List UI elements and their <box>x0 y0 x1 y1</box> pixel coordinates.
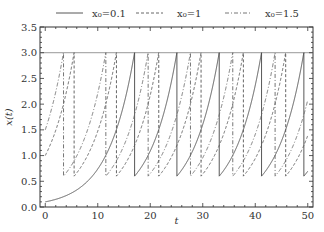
legend-label: x₀=0.1 <box>92 8 126 19</box>
y-tick-label: 0.5 <box>21 176 37 187</box>
x-tick-label: 30 <box>196 210 209 221</box>
y-tick-label: 0.0 <box>21 202 37 213</box>
plot-area: 010203040500.00.51.01.52.02.53.03.5 <box>21 22 314 222</box>
y-tick-label: 2.5 <box>21 73 37 84</box>
x-tick-label: 40 <box>249 210 262 221</box>
series-lines <box>45 53 308 202</box>
y-tick-label: 3.0 <box>21 47 37 58</box>
x-axis-label: t <box>174 215 179 226</box>
x-tick-label: 50 <box>301 210 314 221</box>
y-tick-label: 2.0 <box>21 99 37 110</box>
x-tick-label: 10 <box>91 210 104 221</box>
y-tick-label: 1.0 <box>21 150 37 161</box>
x-tick-label: 20 <box>144 210 157 221</box>
legend-label: x₀=1.5 <box>265 8 299 19</box>
tick-labels: 010203040500.00.51.01.52.02.53.03.5 <box>21 22 314 222</box>
y-axis-label: x(t) <box>3 108 14 126</box>
chart: x₀=0.1x₀=1x₀=1.5 010203040500.00.51.01.5… <box>0 0 324 232</box>
y-tick-label: 3.5 <box>21 22 37 33</box>
y-tick-label: 1.5 <box>21 124 37 135</box>
x-tick-label: 0 <box>42 210 48 221</box>
legend-label: x₀=1 <box>177 8 201 19</box>
legend: x₀=0.1x₀=1x₀=1.5 <box>56 8 299 19</box>
